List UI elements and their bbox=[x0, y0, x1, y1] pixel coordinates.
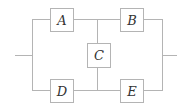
reliability-block-diagram: ABCDE bbox=[0, 0, 187, 107]
component-d: D bbox=[51, 80, 74, 103]
component-a: A bbox=[51, 9, 74, 32]
component-label: A bbox=[56, 13, 66, 28]
component-c: C bbox=[88, 44, 111, 68]
component-label: E bbox=[126, 84, 137, 99]
component-label: C bbox=[94, 48, 104, 63]
diagram-canvas: ABCDE bbox=[0, 0, 187, 107]
component-e: E bbox=[121, 80, 144, 103]
component-label: B bbox=[126, 13, 137, 28]
component-label: D bbox=[56, 84, 68, 99]
component-b: B bbox=[121, 9, 144, 32]
